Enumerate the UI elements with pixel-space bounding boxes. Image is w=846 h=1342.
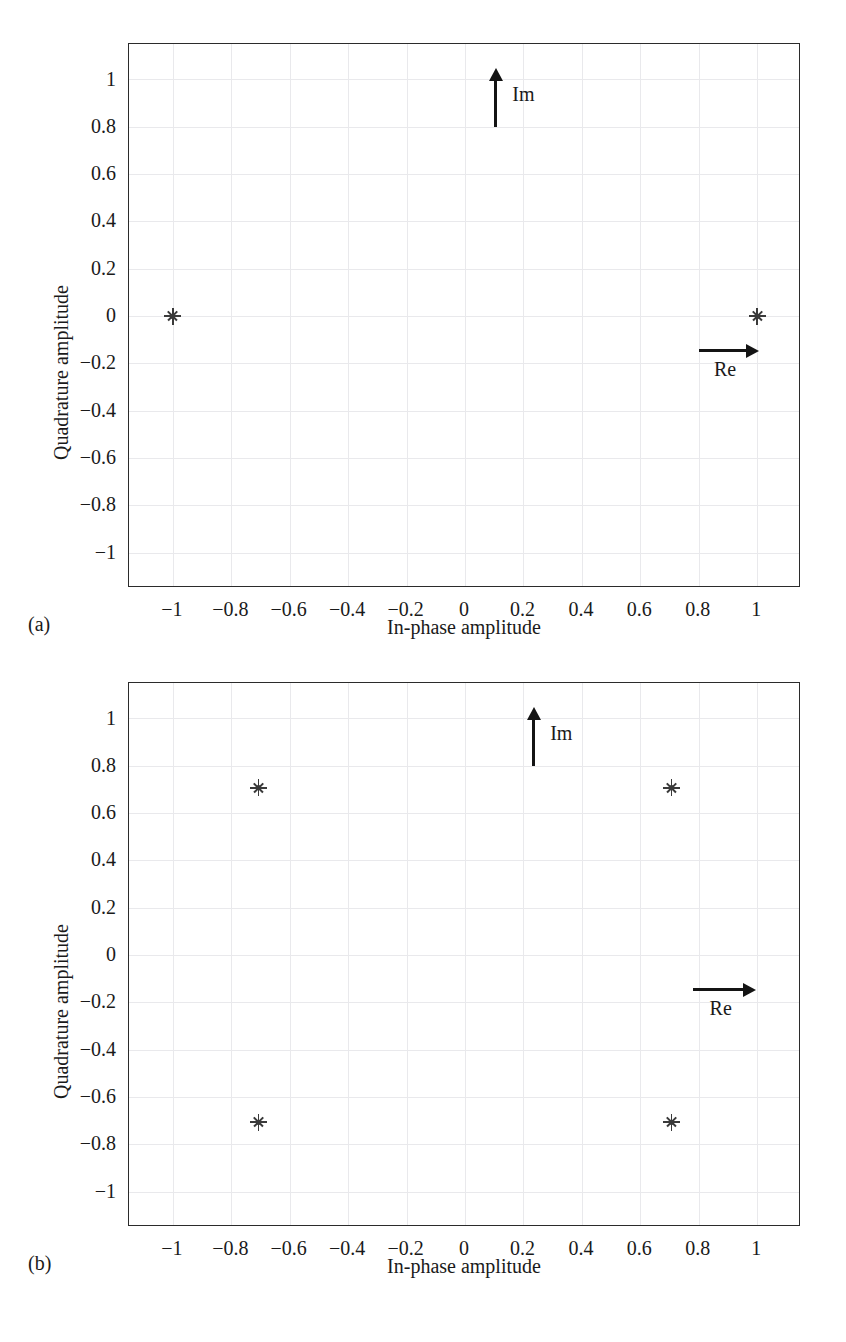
gridline-horizontal bbox=[129, 363, 799, 364]
x-tick-label: 1 bbox=[726, 599, 786, 619]
y-tick-label: 0.4 bbox=[42, 210, 116, 230]
panel-a: Quadrature amplitude ImRe 10.80.60.40.20… bbox=[0, 0, 846, 630]
x-tick-label: 0.6 bbox=[609, 1238, 669, 1258]
gridline-horizontal bbox=[129, 1192, 799, 1193]
panel-a-tag: (a) bbox=[28, 613, 50, 636]
gridline-horizontal bbox=[129, 411, 799, 412]
y-tick-label: 0.4 bbox=[42, 849, 116, 869]
gridline-horizontal bbox=[129, 813, 799, 814]
y-tick-label: 0 bbox=[42, 305, 116, 325]
x-tick-label: −0.6 bbox=[259, 1238, 319, 1258]
gridline-horizontal bbox=[129, 908, 799, 909]
x-tick-label: 1 bbox=[726, 1238, 786, 1258]
gridline-horizontal bbox=[129, 79, 799, 80]
gridline-horizontal bbox=[129, 766, 799, 767]
gridline-horizontal bbox=[129, 1002, 799, 1003]
panel-b-gridlines bbox=[129, 683, 799, 1225]
figure-constellation-diagrams: Quadrature amplitude ImRe 10.80.60.40.20… bbox=[0, 0, 846, 1342]
y-tick-label: −0.6 bbox=[42, 1086, 116, 1106]
y-tick-label: −0.4 bbox=[42, 400, 116, 420]
panel-a-x-axis-title: In-phase amplitude bbox=[324, 616, 604, 639]
x-tick-label: 0.8 bbox=[668, 1238, 728, 1258]
panel-b-plot-area: ImRe bbox=[128, 682, 800, 1226]
gridline-horizontal bbox=[129, 174, 799, 175]
y-tick-label: 0.2 bbox=[42, 258, 116, 278]
y-tick-label: 0.2 bbox=[42, 897, 116, 917]
y-tick-label: 0.8 bbox=[42, 755, 116, 775]
y-tick-label: −1 bbox=[42, 542, 116, 562]
imaginary-axis-label: Im bbox=[512, 83, 534, 106]
panel-b-tag: (b) bbox=[28, 1252, 51, 1275]
panel-b: Quadrature amplitude ImRe 10.80.60.40.20… bbox=[0, 639, 846, 1299]
x-tick-label: 0.8 bbox=[668, 599, 728, 619]
y-tick-label: −1 bbox=[42, 1181, 116, 1201]
panel-a-plot-area: ImRe bbox=[128, 43, 800, 587]
y-tick-label: 0.6 bbox=[42, 163, 116, 183]
gridline-horizontal bbox=[129, 1050, 799, 1051]
gridline-horizontal bbox=[129, 127, 799, 128]
real-axis-label: Re bbox=[710, 997, 732, 1020]
y-tick-label: 1 bbox=[42, 69, 116, 89]
x-tick-label: −0.8 bbox=[200, 599, 260, 619]
gridline-horizontal bbox=[129, 955, 799, 956]
y-tick-label: 1 bbox=[42, 708, 116, 728]
imaginary-axis-label: Im bbox=[550, 722, 572, 745]
y-tick-label: 0.6 bbox=[42, 802, 116, 822]
x-tick-label: −0.8 bbox=[200, 1238, 260, 1258]
x-tick-label: −1 bbox=[142, 1238, 202, 1258]
x-tick-label: −1 bbox=[142, 599, 202, 619]
y-tick-label: −0.8 bbox=[42, 494, 116, 514]
y-tick-label: −0.2 bbox=[42, 352, 116, 372]
gridline-horizontal bbox=[129, 718, 799, 719]
x-tick-label: 0.6 bbox=[609, 599, 669, 619]
gridline-horizontal bbox=[129, 1144, 799, 1145]
panel-b-x-axis-title: In-phase amplitude bbox=[324, 1255, 604, 1278]
gridline-horizontal bbox=[129, 860, 799, 861]
gridline-horizontal bbox=[129, 553, 799, 554]
y-tick-label: 0.8 bbox=[42, 116, 116, 136]
real-axis-label: Re bbox=[714, 358, 736, 381]
x-tick-label: −0.6 bbox=[259, 599, 319, 619]
gridline-horizontal bbox=[129, 505, 799, 506]
y-tick-label: 0 bbox=[42, 944, 116, 964]
gridline-horizontal bbox=[129, 458, 799, 459]
panel-a-gridlines bbox=[129, 44, 799, 586]
gridline-horizontal bbox=[129, 221, 799, 222]
gridline-horizontal bbox=[129, 269, 799, 270]
gridline-horizontal bbox=[129, 316, 799, 317]
gridline-horizontal bbox=[129, 1097, 799, 1098]
y-tick-label: −0.2 bbox=[42, 991, 116, 1011]
y-tick-label: −0.4 bbox=[42, 1039, 116, 1059]
y-tick-label: −0.6 bbox=[42, 447, 116, 467]
y-tick-label: −0.8 bbox=[42, 1133, 116, 1153]
